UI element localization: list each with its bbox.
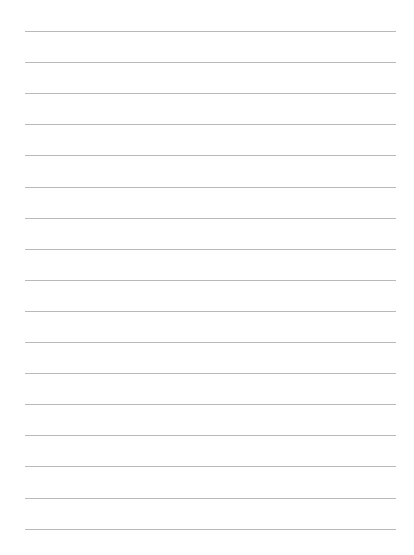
ruled-line	[25, 280, 396, 281]
ruled-line	[25, 311, 396, 312]
ruled-line	[25, 529, 396, 530]
ruled-line	[25, 124, 396, 125]
ruled-line	[25, 342, 396, 343]
ruled-line	[25, 435, 396, 436]
ruled-line	[25, 187, 396, 188]
ruled-line	[25, 404, 396, 405]
lined-paper-page	[0, 0, 414, 555]
ruled-line	[25, 31, 396, 32]
ruled-line	[25, 498, 396, 499]
ruled-line	[25, 93, 396, 94]
ruled-line	[25, 373, 396, 374]
ruled-line	[25, 62, 396, 63]
ruled-line	[25, 155, 396, 156]
ruled-line	[25, 218, 396, 219]
ruled-line	[25, 466, 396, 467]
ruled-line	[25, 249, 396, 250]
